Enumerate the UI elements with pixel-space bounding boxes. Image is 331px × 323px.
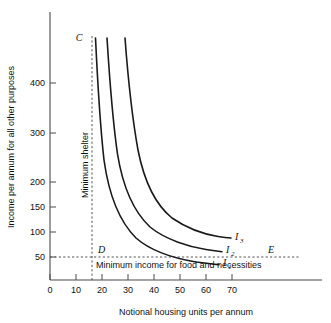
- y-tick-label-300: 300: [30, 128, 45, 138]
- minimum-shelter-label: Minimum shelter: [80, 132, 90, 198]
- x-tick-label-30: 30: [123, 285, 133, 295]
- curve-label-I3-base: I: [234, 231, 239, 242]
- y-axis-title: Income per annum for all other purposes: [6, 65, 16, 228]
- point-label-D: D: [97, 244, 106, 255]
- indifference-curve-chart: 400 300 200 150 100 50 0 10: [0, 0, 331, 323]
- x-tick-label-10: 10: [71, 285, 81, 295]
- y-tick-label-150: 150: [30, 202, 45, 212]
- x-tick-label-70: 70: [227, 285, 237, 295]
- y-tick-label-50: 50: [35, 252, 45, 262]
- curve-label-I2-sub: 2: [231, 250, 235, 258]
- curve-label-I3-sub: 3: [239, 237, 244, 245]
- chart-svg: 400 300 200 150 100 50 0 10: [0, 0, 331, 323]
- curve-label-I2-base: I: [225, 244, 230, 255]
- x-tick-label-20: 20: [97, 285, 107, 295]
- y-tick-label-400: 400: [30, 78, 45, 88]
- x-axis-title: Notional housing units per annum: [119, 307, 253, 317]
- y-tick-label-100: 100: [30, 227, 45, 237]
- y-tick-label-200: 200: [30, 177, 45, 187]
- chart-container: 400 300 200 150 100 50 0 10: [0, 0, 331, 323]
- minimum-income-label: Minimum income for food and necessities: [96, 260, 262, 270]
- x-tick-label-0: 0: [47, 285, 52, 295]
- x-tick-label-40: 40: [149, 285, 159, 295]
- point-label-E: E: [267, 244, 274, 255]
- x-tick-label-50: 50: [175, 285, 185, 295]
- x-tick-label-60: 60: [201, 285, 211, 295]
- point-label-C: C: [76, 32, 83, 43]
